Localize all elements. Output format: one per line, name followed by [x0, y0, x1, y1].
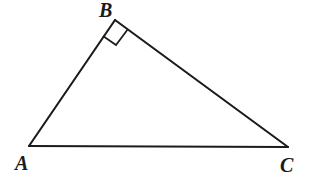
triangle-drawing: [0, 0, 313, 189]
vertex-label-b: B: [99, 0, 112, 20]
edge-CA: [29, 146, 288, 147]
vertex-label-c: C: [280, 155, 293, 175]
figure-background: [0, 0, 313, 189]
vertex-label-a: A: [15, 153, 28, 173]
geometry-figure: A B C: [0, 0, 313, 189]
